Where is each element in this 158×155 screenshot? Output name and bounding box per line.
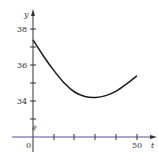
origin-label: 0 <box>26 141 31 150</box>
chart: y t 38 36 34 0 50 ≈ <box>0 0 158 155</box>
x-tick-label-50: 50 <box>132 141 142 150</box>
axis-break-mark-icon: ≈ <box>29 123 40 133</box>
x-axis-arrow-icon <box>150 135 157 139</box>
y-tick-label-36: 36 <box>17 61 27 70</box>
y-axis-label: y <box>23 10 29 19</box>
y-tick-label-34: 34 <box>17 97 27 106</box>
data-curve <box>33 40 137 98</box>
y-axis-arrow-icon <box>31 9 35 16</box>
y-tick-label-38: 38 <box>17 25 27 34</box>
x-axis-label: t <box>151 141 155 150</box>
